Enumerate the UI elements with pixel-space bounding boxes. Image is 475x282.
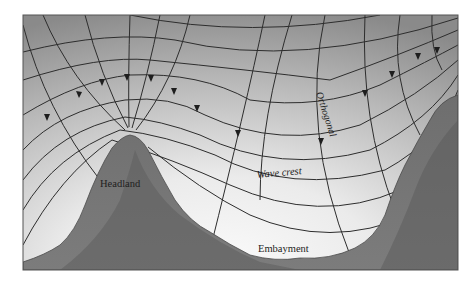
wave-refraction-diagram: Headland Wave crest Orthogonal Embayment [0, 0, 475, 282]
label-headland: Headland [100, 178, 141, 189]
label-embayment: Embayment [258, 243, 309, 254]
